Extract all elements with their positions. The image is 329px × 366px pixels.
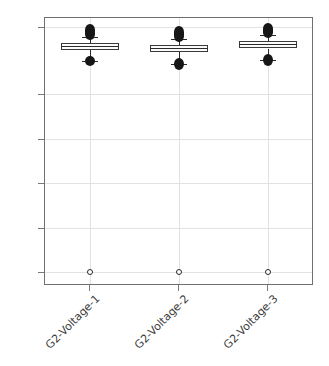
- median-line-1: [61, 46, 119, 47]
- outlier-cloud-lower-2: [174, 58, 184, 70]
- outlier-cloud-lower-1: [85, 56, 95, 66]
- xtick-label-g2-voltage-1: G2-Voltage-1: [27, 293, 102, 366]
- outlier-zero-3: [265, 269, 271, 275]
- xtick-mark-1: [89, 285, 90, 291]
- xtick-mark-2: [178, 285, 179, 291]
- xtick-label-g2-voltage-2: G2-Voltage-2: [116, 293, 191, 366]
- outlier-cloud-lower-3: [263, 54, 273, 66]
- outlier-cloud-upper-3: [263, 23, 273, 38]
- median-line-3: [239, 44, 297, 45]
- outlier-cloud-upper-2: [174, 26, 184, 42]
- outlier-cloud-upper-1: [85, 24, 95, 40]
- outlier-zero-1: [87, 269, 93, 275]
- median-line-2: [150, 48, 208, 49]
- xtick-label-g2-voltage-3: G2-Voltage-3: [205, 293, 280, 366]
- plot-area: [44, 17, 313, 285]
- xtick-mark-3: [267, 285, 268, 291]
- boxplot-figure: 250 200 150 100 50 0: [0, 0, 329, 366]
- outlier-zero-2: [176, 269, 182, 275]
